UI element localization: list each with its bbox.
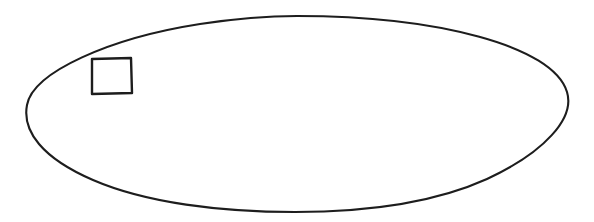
drawing-canvas: Hand-drawn black outline of a wide horiz… <box>0 0 594 222</box>
line-drawing-figure: Hand-drawn black outline of a wide horiz… <box>0 0 594 222</box>
square-shape <box>92 58 132 94</box>
ellipse-shape <box>26 16 568 212</box>
